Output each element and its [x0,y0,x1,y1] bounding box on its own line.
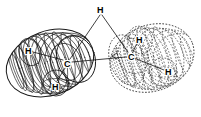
atom-label-h-top: H [97,6,104,15]
atom-label-h-left-upper: H [25,47,32,56]
figure-canvas [0,0,201,117]
atom-label-c-right: C [128,53,135,62]
right-h-lobe-lower [149,58,177,86]
atom-label-h-right-lower: H [165,68,172,77]
bond-h-top-to-c-right [102,15,128,52]
atom-label-c-left: C [64,60,71,69]
atom-label-h-left-lower: H [52,83,59,92]
right-h-lobe-lower-equator [149,67,177,77]
molecular-wireframe-figure: H H C H H C H [0,0,201,117]
left-wireframe-ovoid [0,18,109,109]
atom-label-h-right-upper: H [136,36,143,45]
right-mesh-longitudes [107,21,201,96]
